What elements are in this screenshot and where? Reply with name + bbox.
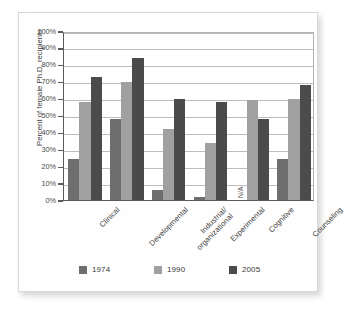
bar [79, 102, 90, 200]
x-axis-category-label: Developmental [148, 206, 190, 248]
y-axis-tick [58, 116, 63, 117]
x-axis-category-label: Industrial/organizational [189, 206, 235, 252]
y-axis-tick [58, 82, 63, 83]
chart-card: Percent of female Ph.D. recipients N/A 1… [18, 12, 318, 292]
bar [194, 197, 205, 200]
x-axis-category-label: Experimental [230, 206, 268, 244]
bar-missing-label: N/A [237, 186, 244, 198]
bar [68, 159, 79, 200]
bar [247, 100, 258, 200]
y-axis-tick [58, 31, 63, 32]
y-axis-tick-label: 0% [46, 197, 56, 205]
y-axis-tick [58, 48, 63, 49]
legend-swatch [154, 266, 162, 274]
bar [110, 119, 121, 200]
bar [132, 58, 143, 200]
x-axis-category-label: Counseling [311, 206, 344, 239]
y-axis-tick [58, 167, 63, 168]
y-axis-tick [58, 150, 63, 151]
bar [216, 102, 227, 200]
y-axis-tick [58, 133, 63, 134]
chart-legend: 197419902005 [79, 265, 289, 277]
y-axis-tick [58, 183, 63, 184]
bar [288, 99, 299, 200]
y-axis-tick-label: 90% [42, 44, 57, 52]
y-axis-tick-label: 80% [42, 61, 57, 69]
y-axis-tick-label: 40% [42, 129, 57, 137]
legend-label: 1974 [92, 265, 110, 274]
bar [205, 143, 216, 200]
legend-item: 2005 [229, 265, 260, 274]
legend-swatch [79, 266, 87, 274]
y-axis-tick-label: 10% [42, 180, 57, 188]
legend-item: 1990 [154, 265, 185, 274]
legend-label: 2005 [242, 265, 260, 274]
y-axis-tick [58, 99, 63, 100]
gridline [64, 66, 313, 67]
y-axis-tick-label: 30% [42, 146, 57, 154]
y-axis-tick-label: 100% [37, 28, 56, 36]
x-axis-category-label: Cognitive [268, 206, 297, 235]
y-axis-tick [58, 200, 63, 201]
x-axis-category-label: Clinical [98, 206, 122, 230]
y-axis-tick [58, 65, 63, 66]
y-axis-tick-label: 70% [42, 78, 57, 86]
legend-label: 1990 [167, 265, 185, 274]
y-axis-tick-label: 60% [42, 95, 57, 103]
bar [277, 159, 288, 200]
gridline [64, 33, 313, 34]
plot-area: N/A [63, 32, 314, 201]
chart-figure: Percent of female Ph.D. recipients N/A 1… [19, 13, 319, 293]
bar [258, 119, 269, 200]
y-axis-tick-label: 20% [42, 163, 57, 171]
gridline [64, 49, 313, 50]
bar [174, 99, 185, 200]
bar [91, 77, 102, 200]
bar [163, 129, 174, 200]
y-axis-tick-label: 50% [42, 112, 57, 120]
legend-swatch [229, 266, 237, 274]
bar [300, 85, 311, 200]
bar [152, 190, 163, 200]
legend-item: 1974 [79, 265, 110, 274]
bar [121, 82, 132, 200]
